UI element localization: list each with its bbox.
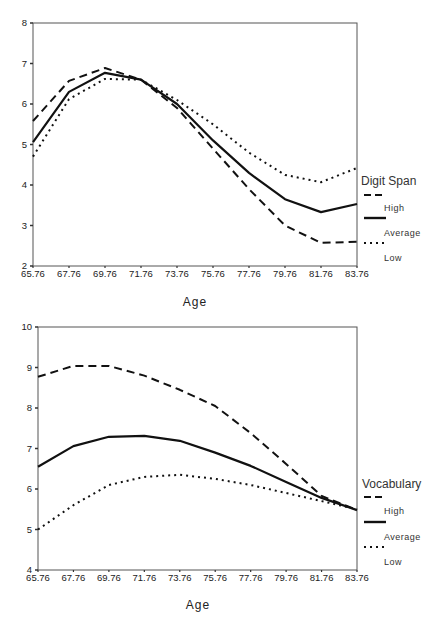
legend-high-label: High	[384, 203, 405, 213]
series-high-line	[38, 366, 357, 510]
series-lines	[38, 366, 357, 530]
x-tick-label: 65.76	[26, 572, 50, 583]
x-tick-label: 67.76	[62, 572, 86, 583]
series-average-line	[33, 73, 357, 212]
x-axis-label: Age	[183, 295, 207, 309]
plot-frame	[33, 23, 357, 266]
legend-title: Vocabulary	[362, 477, 421, 491]
y-tick-label: 6	[27, 483, 32, 494]
x-tick-label: 65.76	[21, 268, 45, 279]
series-high-line	[33, 68, 357, 243]
x-axis: 65.7667.7669.7671.7673.7675.7677.7679.76…	[21, 266, 369, 279]
x-tick-label: 69.76	[97, 572, 121, 583]
y-axis: 2345678	[22, 17, 33, 271]
vocabulary-chart: 45678910 65.7667.7669.7671.7673.7675.767…	[21, 321, 421, 612]
y-tick-label: 8	[27, 402, 32, 413]
digit-span-chart: 2345678 65.7667.7669.7671.7673.7675.7677…	[21, 17, 421, 309]
x-tick-label: 73.76	[165, 268, 189, 279]
y-tick-label: 7	[22, 58, 27, 69]
y-tick-label: 4	[22, 179, 27, 190]
x-tick-label: 79.76	[274, 572, 298, 583]
y-axis: 45678910	[21, 321, 38, 575]
figure: 2345678 65.7667.7669.7671.7673.7675.7677…	[0, 0, 444, 622]
x-tick-label: 75.76	[203, 572, 227, 583]
series-low-line	[38, 475, 357, 530]
x-tick-label: 83.76	[345, 268, 369, 279]
y-tick-label: 5	[22, 139, 27, 150]
x-axis: 65.7667.7669.7671.7673.7675.7677.7679.76…	[26, 570, 369, 583]
legend-title: Digit Span	[361, 174, 416, 188]
series-lines	[33, 68, 357, 243]
x-tick-label: 71.76	[132, 572, 156, 583]
series-average-line	[38, 436, 357, 510]
series-low-line	[33, 79, 357, 182]
legend: Vocabulary High Average Low	[362, 477, 421, 567]
legend: Digit Span High Average Low	[361, 174, 421, 263]
x-tick-label: 79.76	[273, 268, 297, 279]
y-tick-label: 8	[22, 17, 27, 28]
x-tick-label: 77.76	[239, 572, 263, 583]
legend-low-label: Low	[384, 253, 402, 263]
x-tick-label: 73.76	[168, 572, 192, 583]
y-tick-label: 10	[21, 321, 32, 332]
plot-frame	[38, 327, 357, 570]
x-tick-label: 83.76	[345, 572, 369, 583]
y-tick-label: 3	[22, 220, 27, 231]
y-tick-label: 9	[27, 362, 32, 373]
legend-low-label: Low	[384, 557, 402, 567]
x-tick-label: 81.76	[310, 572, 334, 583]
x-axis-label: Age	[186, 598, 210, 612]
x-tick-label: 75.76	[201, 268, 225, 279]
y-tick-label: 5	[27, 524, 32, 535]
x-tick-label: 71.76	[129, 268, 153, 279]
legend-average-label: Average	[384, 228, 421, 238]
x-tick-label: 77.76	[237, 268, 261, 279]
y-tick-label: 6	[22, 98, 27, 109]
legend-average-label: Average	[384, 532, 421, 542]
x-tick-label: 67.76	[57, 268, 81, 279]
legend-high-label: High	[384, 506, 405, 516]
y-tick-label: 7	[27, 443, 32, 454]
x-tick-label: 69.76	[93, 268, 117, 279]
x-tick-label: 81.76	[309, 268, 333, 279]
